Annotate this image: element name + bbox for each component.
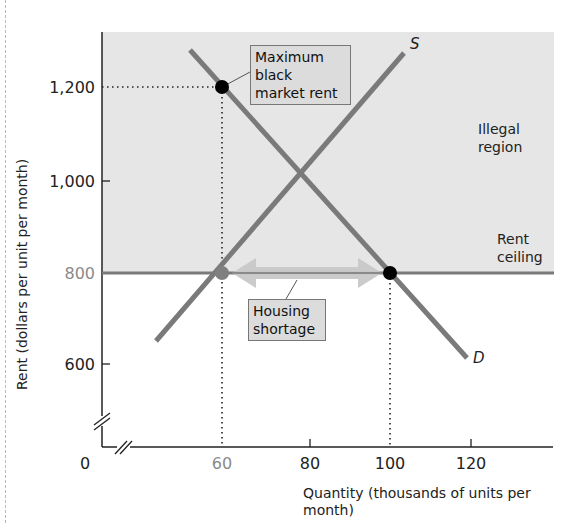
rent-ceiling-line-2: ceiling: [497, 248, 543, 266]
illegal-region-line-2: region: [478, 138, 522, 156]
x-axis-break-icon: [115, 441, 132, 454]
x-tick-label-60: 60: [202, 455, 242, 472]
max-black-market-callout: Maximum black market rent: [250, 45, 351, 105]
y-tick-label-1200: 1,200: [47, 79, 95, 96]
callout-line-1: Maximum black: [255, 48, 346, 84]
housing-shortage-callout: Housing shortage: [248, 299, 326, 341]
x-tick-label-0: 0: [80, 455, 90, 472]
max-black-market-point: [215, 80, 229, 94]
housing-shortage-line-1: Housing: [253, 302, 321, 320]
demand-curve-label: D: [473, 350, 485, 367]
quantity-supplied-point: [215, 266, 229, 280]
y-tick-label-800: 800: [47, 265, 95, 282]
x-tick-label-120: 120: [451, 455, 491, 472]
rent-ceiling-line-1: Rent: [497, 230, 543, 248]
illegal-region-line-1: Illegal: [478, 120, 522, 138]
housing-shortage-line-2: shortage: [253, 320, 321, 338]
y-tick-label-600: 600: [47, 356, 95, 373]
rent-ceiling-label: Rent ceiling: [497, 230, 543, 266]
x-tick-label-100: 100: [370, 455, 410, 472]
supply-curve-label: S: [410, 36, 420, 53]
x-axis-label: Quantity (thousands of units per month): [303, 485, 577, 519]
callout-line-2: market rent: [255, 84, 346, 102]
y-tick-label-1000: 1,000: [47, 173, 95, 190]
y-axis-label: Rent (dollars per unit per month): [14, 159, 31, 390]
illegal-region-label: Illegal region: [478, 120, 522, 156]
x-tick-label-80: 80: [290, 455, 330, 472]
leader-housing-shortage: [286, 280, 297, 299]
quantity-demanded-point: [383, 266, 397, 280]
